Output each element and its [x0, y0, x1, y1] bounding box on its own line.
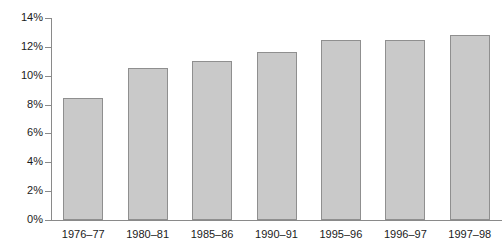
y-axis-tick-label: 6% — [3, 127, 43, 138]
bar — [63, 98, 103, 220]
bars-group — [51, 18, 502, 220]
y-axis-tick-label: 10% — [3, 70, 43, 81]
y-axis-tick — [45, 220, 52, 221]
y-axis-tick-label: 8% — [3, 99, 43, 110]
bar — [385, 40, 425, 220]
x-axis-tick-label: 1995–96 — [309, 228, 373, 240]
bar — [128, 68, 168, 220]
x-axis-tick-label: 1997–98 — [438, 228, 502, 240]
bar — [450, 35, 490, 220]
y-axis-tick-label: 0% — [3, 214, 43, 225]
bar — [321, 40, 361, 220]
x-axis-tick-label: 1990–91 — [244, 228, 308, 240]
y-axis-tick-label: 12% — [3, 41, 43, 52]
x-axis-tick-label: 1996–97 — [373, 228, 437, 240]
x-axis-line — [51, 220, 502, 221]
x-axis-tick-label: 1976–77 — [51, 228, 115, 240]
y-axis-tick-label: 14% — [3, 12, 43, 23]
x-axis-tick-label: 1980–81 — [115, 228, 179, 240]
y-axis-tick-label: 2% — [3, 185, 43, 196]
y-axis-tick-label: 4% — [3, 156, 43, 167]
bar — [257, 52, 297, 220]
bar — [192, 61, 232, 220]
bar-chart: 0%2%4%6%8%10%12%14% 1976–771980–811985–8… — [0, 0, 502, 252]
x-axis-tick-label: 1985–86 — [180, 228, 244, 240]
